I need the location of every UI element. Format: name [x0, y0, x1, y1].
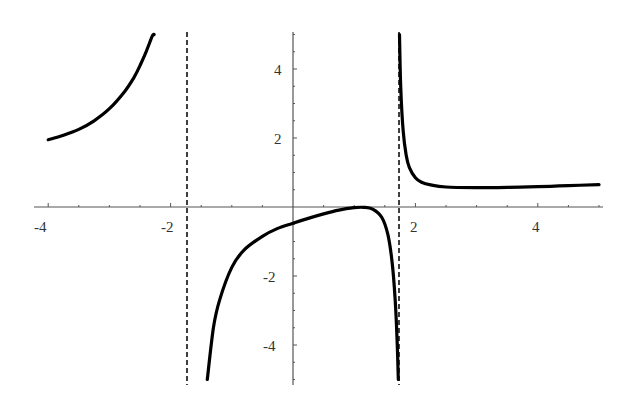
y-tick-label-neg2: -2 — [263, 269, 276, 285]
x-tick-label-neg4: -4 — [34, 219, 47, 235]
left-branch-curve — [48, 34, 154, 139]
tick-labels: -4 -2 2 4 4 2 -2 -4 — [34, 62, 540, 354]
x-tick-label-2: 2 — [410, 219, 418, 235]
x-tick-label-neg2: -2 — [161, 219, 174, 235]
y-tick-label-2: 2 — [274, 131, 282, 147]
axes — [34, 32, 603, 385]
x-tick-label-4: 4 — [532, 219, 540, 235]
plot-area: -4 -2 2 4 4 2 -2 -4 — [0, 0, 639, 401]
y-tick-label-4: 4 — [274, 62, 282, 78]
right-branch-curve — [400, 35, 600, 188]
y-tick-label-neg4: -4 — [263, 338, 276, 354]
middle-branch-curve — [207, 207, 398, 379]
